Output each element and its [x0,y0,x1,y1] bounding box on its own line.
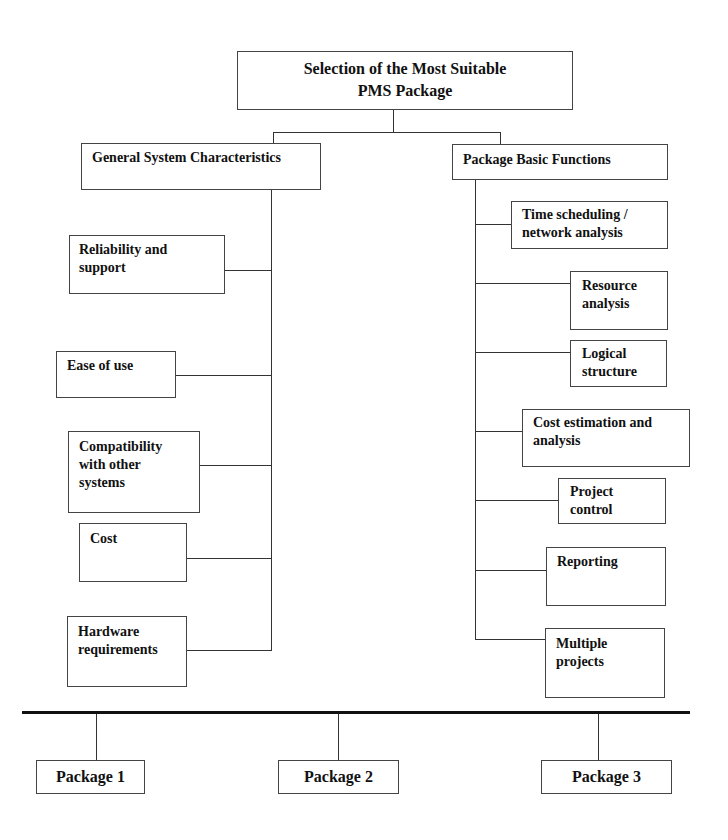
reliability-support-box: Reliability and support [69,235,225,294]
item-label: Cost estimation and analysis [533,414,652,450]
package-basic-functions-label: Package Basic Functions [463,151,611,169]
package-1-drop [96,714,97,760]
package-2-box: Package 2 [278,760,399,794]
connector [476,639,545,640]
connector [476,224,511,225]
item-label: Reliability and support [79,241,167,277]
hardware-requirements-box: Hardware requirements [67,616,187,687]
connector [200,465,272,466]
connector [476,570,546,571]
item-label: Ease of use [67,357,133,375]
connector [476,352,570,353]
logical-structure-box: Logical structure [570,340,667,387]
connector [187,558,272,559]
item-label: Compatibility with other systems [79,438,162,492]
right-branch-drop [500,132,501,144]
left-spine [271,190,272,651]
root-connector [393,110,394,132]
package-2-drop [338,714,339,760]
multiple-projects-box: Multiple projects [545,628,665,698]
connector [476,283,570,284]
item-label: Logical structure [582,345,637,381]
left-branch-drop [273,132,274,143]
general-system-characteristics-box: General System Characteristics [81,143,321,190]
package-1-box: Package 1 [36,760,145,794]
general-system-characteristics-label: General System Characteristics [92,149,281,167]
package-basic-functions-box: Package Basic Functions [452,144,668,180]
cost-box: Cost [79,523,187,582]
connector [476,431,522,432]
item-label: Multiple projects [556,635,607,671]
item-label: Hardware requirements [78,623,158,659]
package-bar [22,711,690,714]
branch-connector [273,132,501,133]
item-label: Reporting [557,553,618,571]
cost-estimation-box: Cost estimation and analysis [522,409,690,467]
resource-analysis-box: Resource analysis [570,271,668,330]
compatibility-box: Compatibility with other systems [68,431,200,513]
item-label: Time scheduling / network analysis [522,206,628,242]
item-label: Project control [570,483,613,519]
package-2-label: Package 2 [304,768,373,785]
package-3-label: Package 3 [572,768,641,785]
connector [225,270,272,271]
connector [476,500,558,501]
project-control-box: Project control [558,478,666,524]
connector [187,650,272,651]
package-3-box: Package 3 [541,760,672,794]
item-label: Cost [90,530,117,548]
item-label: Resource analysis [582,277,637,313]
root-box: Selection of the Most Suitable PMS Packa… [237,51,573,110]
connector [176,375,272,376]
time-scheduling-box: Time scheduling / network analysis [511,201,668,249]
reporting-box: Reporting [546,547,666,606]
package-1-label: Package 1 [56,768,125,785]
root-label: Selection of the Most Suitable PMS Packa… [238,58,572,102]
ease-of-use-box: Ease of use [56,351,176,398]
package-3-drop [598,714,599,760]
